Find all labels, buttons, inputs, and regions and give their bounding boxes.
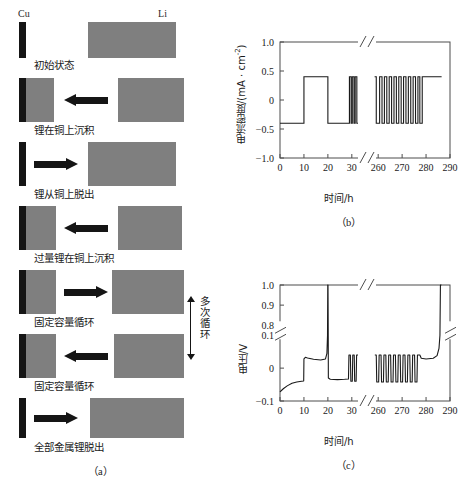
schematic-row bbox=[0, 22, 232, 58]
y-tick-label: 0.5 bbox=[262, 66, 275, 77]
plot-frame bbox=[280, 285, 450, 401]
x-tick-label: 290 bbox=[443, 162, 458, 173]
x-tick-label: 260 bbox=[371, 162, 386, 173]
x-tick-label: 280 bbox=[419, 162, 434, 173]
step-caption: 全部金属锂脱出 bbox=[34, 442, 104, 453]
schematic-row bbox=[0, 206, 232, 250]
li-deposit-layer bbox=[26, 78, 54, 122]
electrode-label-li: Li bbox=[158, 8, 167, 19]
li-electrode bbox=[90, 398, 184, 438]
li-deposit-layer bbox=[26, 270, 56, 314]
step-caption: 锂在铜上沉积 bbox=[34, 125, 94, 136]
y-axis-title-b-base: 电流密度/(mA · cm bbox=[236, 55, 247, 144]
step-caption: 初始状态 bbox=[34, 60, 74, 71]
x-axis-title-c: 时间/h bbox=[324, 433, 354, 448]
x-tick-label: 270 bbox=[395, 405, 410, 416]
x-tick-label: 20 bbox=[323, 162, 333, 173]
schematic-row bbox=[0, 398, 232, 438]
panel-tag-b: （b） bbox=[336, 214, 361, 229]
li-deposit-layer bbox=[26, 334, 56, 378]
x-tick-label: 0 bbox=[278, 405, 283, 416]
figure-root: Cu Li 初始状态 锂在铜上沉积 锂从铜上脱出 bbox=[0, 0, 464, 484]
x-tick-label: 270 bbox=[395, 162, 410, 173]
panel-a-schematic: Cu Li 初始状态 锂在铜上沉积 锂从铜上脱出 bbox=[0, 0, 232, 484]
cu-electrode bbox=[19, 270, 26, 314]
cu-electrode bbox=[19, 142, 26, 186]
panel-tag-c: （c） bbox=[336, 457, 361, 472]
y-axis-title-c: 电压/V bbox=[236, 337, 251, 381]
x-tick-label: 10 bbox=[299, 405, 309, 416]
electrode-label-cu: Cu bbox=[18, 8, 30, 19]
schematic-row bbox=[0, 142, 232, 186]
step-caption: 固定容量循环 bbox=[34, 381, 94, 392]
cu-electrode bbox=[19, 206, 26, 250]
y-tick-label: 0.9 bbox=[262, 300, 275, 311]
x-tick-label: 280 bbox=[419, 405, 434, 416]
y-axis-title-b-exp: -2 bbox=[234, 48, 242, 55]
arrow-right-icon bbox=[64, 286, 108, 298]
y-tick-label: 0 bbox=[269, 95, 274, 106]
step-caption: 锂从铜上脱出 bbox=[34, 189, 94, 200]
y-axis-title-b: 电流密度/(mA · cm-2) bbox=[234, 38, 249, 150]
schematic-row bbox=[0, 78, 232, 122]
li-electrode bbox=[118, 206, 182, 250]
arrow-right-icon bbox=[34, 158, 78, 170]
y-tick-label: −1.0 bbox=[256, 153, 274, 164]
y-axis-title-b-tail: ) bbox=[236, 44, 247, 48]
arrow-left-icon bbox=[64, 222, 108, 234]
step-caption: 固定容量循环 bbox=[34, 317, 94, 328]
panel-tag-a: （a） bbox=[88, 463, 113, 478]
arrow-right-icon bbox=[34, 412, 78, 424]
y-tick-label: 1.0 bbox=[262, 280, 275, 291]
li-electrode bbox=[88, 22, 176, 58]
panel-b-chart: −1.0−0.500.51.00102030260270280290 电流密度/… bbox=[232, 0, 464, 240]
x-tick-label: 290 bbox=[443, 405, 458, 416]
data-series-current bbox=[280, 77, 442, 123]
li-electrode bbox=[118, 78, 184, 122]
x-tick-label: 30 bbox=[347, 162, 357, 173]
y-tick-label: 1.0 bbox=[262, 37, 275, 48]
panel-c-chart: −0.100.10.80.91.00102030260270280290 电压/… bbox=[232, 245, 464, 484]
li-electrode bbox=[114, 334, 184, 378]
li-electrode bbox=[112, 270, 184, 314]
multiple-cycles-label: 多次循环 bbox=[198, 296, 211, 340]
arrow-left-icon bbox=[64, 350, 108, 362]
cu-electrode bbox=[19, 22, 26, 58]
cu-electrode bbox=[19, 78, 26, 122]
li-electrode bbox=[88, 142, 176, 186]
cu-electrode bbox=[19, 398, 26, 438]
step-caption: 过量锂在铜上沉积 bbox=[34, 253, 114, 264]
schematic-row bbox=[0, 334, 232, 378]
y-tick-label: 0.1 bbox=[262, 330, 275, 341]
y-tick-label: −0.1 bbox=[256, 396, 274, 407]
y-tick-label: −0.5 bbox=[256, 124, 274, 135]
li-deposit-layer bbox=[26, 206, 56, 250]
plot-frame bbox=[280, 42, 450, 158]
x-tick-label: 20 bbox=[323, 405, 333, 416]
cu-electrode bbox=[19, 334, 26, 378]
x-axis-title-b: 时间/h bbox=[324, 190, 354, 205]
y-tick-label: 0 bbox=[269, 363, 274, 374]
x-tick-label: 30 bbox=[347, 405, 357, 416]
y-tick-label: 0.8 bbox=[262, 320, 275, 331]
x-tick-label: 0 bbox=[278, 162, 283, 173]
data-series-voltage bbox=[280, 285, 441, 392]
x-tick-label: 10 bbox=[299, 162, 309, 173]
voltage-plot: −0.100.10.80.91.00102030260270280290 bbox=[232, 245, 464, 484]
arrow-left-icon bbox=[64, 94, 108, 106]
multiple-cycles-arrow-icon bbox=[186, 296, 195, 360]
x-tick-label: 260 bbox=[371, 405, 386, 416]
